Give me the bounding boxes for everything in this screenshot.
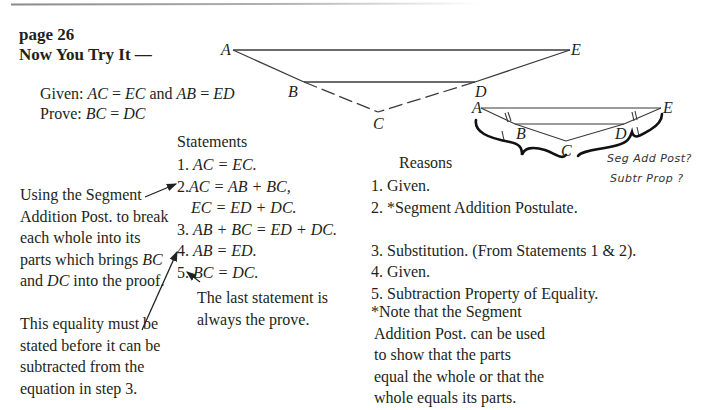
statement-text: AC = EC. (193, 156, 257, 173)
equality-note: This equality must be stated before it c… (20, 313, 190, 399)
point-label-e: E (571, 42, 581, 58)
reason-row: 2. *Segment Addition Postulate. (371, 197, 636, 219)
point-label-b: B (288, 84, 298, 100)
point-label-c: C (373, 116, 384, 132)
statements-list: 1. AC = EC. 2.AC = AB + BC, EC = ED + DC… (177, 154, 337, 283)
reason-row-spacer (371, 218, 636, 240)
footnote-line: equal the whole or that the (371, 366, 601, 388)
statement-text: AB + BC = ED + DC. (193, 221, 337, 238)
statement-text: AC = AB + BC, (189, 178, 291, 195)
reasons-list: 1. Given. 2. *Segment Addition Postulate… (371, 175, 636, 304)
statement-row: 4. AB = ED. (177, 240, 337, 262)
note-expr: DC (47, 272, 69, 289)
statement-row: 3. AB + BC = ED + DC. (177, 219, 337, 241)
point-label-a: A (221, 42, 231, 58)
footnote-line: Addition Post. can be used (371, 323, 601, 345)
statement-row: 5. BC = DC. (177, 262, 337, 284)
statement-text: EC = ED + DC. (191, 199, 297, 216)
main-triangle-diagram (233, 50, 570, 112)
footnote-line: to show that the parts (371, 344, 601, 366)
point-label-d: D (475, 84, 487, 100)
reason-row: 1. Given. (371, 175, 636, 197)
reasons-header: Reasons (399, 154, 452, 172)
statement-row: EC = ED + DC. (177, 197, 337, 219)
note-text: and (20, 272, 47, 289)
footnote-line: *Note that the Segment (371, 301, 601, 323)
handwritten-note: Seg Add Post? (607, 152, 692, 165)
statements-header: Statements (177, 133, 247, 151)
small-point-label-d: D (615, 126, 627, 142)
statement-row: 2.AC = AB + BC, (177, 176, 337, 198)
statement-number: 3. (177, 221, 193, 238)
reason-row: 3. Substitution. (From Statements 1 & 2)… (371, 240, 636, 262)
note-text: into the proof. (69, 272, 164, 289)
statement-row: 1. AC = EC. (177, 154, 337, 176)
statement-number: 1. (177, 156, 193, 173)
statement-text: BC = DC. (193, 264, 258, 281)
small-point-label-a: A (472, 100, 482, 116)
statement-text: AB = ED. (193, 242, 257, 259)
small-point-label-b: B (516, 126, 526, 142)
segment-addition-note: Using the Segment Addition Post. to brea… (20, 184, 170, 292)
last-statement-note: The last statement is always the prove. (197, 287, 347, 330)
reason-row: 4. Given. (371, 261, 636, 283)
footnote-line: whole equals its parts. (371, 387, 601, 409)
statement-number: 5. (177, 264, 193, 281)
statement-number: 4. (177, 242, 193, 259)
statement-number: 2. (177, 178, 189, 195)
small-point-label-c: C (561, 143, 572, 159)
small-point-label-e: E (663, 100, 673, 116)
footnote: *Note that the Segment Addition Post. ca… (371, 301, 601, 409)
note-expr: BC (142, 251, 162, 268)
